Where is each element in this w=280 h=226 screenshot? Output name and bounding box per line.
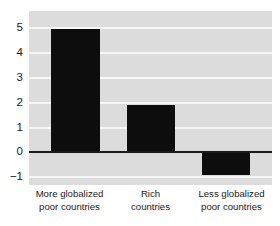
x-category-line1: More globalized: [36, 188, 104, 199]
plot-area: [29, 11, 272, 185]
bar-less-globalized-poor-countries: [202, 153, 250, 175]
bar-more-globalized-poor-countries: [51, 29, 100, 152]
x-category-line2: countries: [110, 201, 191, 214]
x-category-line1: Rich: [141, 188, 160, 199]
y-tick-label: −1: [10, 171, 23, 183]
x-category-label: More globalized poor countries: [29, 188, 110, 224]
y-tick-label: 2: [17, 97, 23, 109]
x-category-line2: poor countries: [29, 201, 110, 214]
bar-rich-countries: [127, 105, 175, 152]
zero-axis-line: [29, 151, 272, 153]
gridline-minus-1: [29, 176, 272, 178]
y-tick-label: 3: [17, 72, 23, 84]
x-category-label: Less globalized poor countries: [191, 188, 272, 224]
x-category-line2: poor countries: [191, 201, 272, 214]
y-axis: 5 4 3 2 1 0 −1: [0, 0, 29, 226]
bar-chart-figure: 5 4 3 2 1 0 −1 More globalized poor coun…: [0, 0, 280, 226]
y-tick-label: 0: [17, 146, 23, 158]
y-tick-label: 5: [17, 22, 23, 34]
x-category-label: Rich countries: [110, 188, 191, 224]
y-tick-label: 4: [17, 47, 23, 59]
x-axis: More globalized poor countries Rich coun…: [29, 188, 272, 224]
x-category-line1: Less globalized: [198, 188, 264, 199]
y-tick-label: 1: [17, 122, 23, 134]
